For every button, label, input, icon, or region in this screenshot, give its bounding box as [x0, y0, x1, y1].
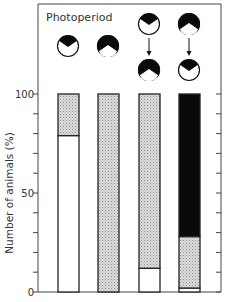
bar-segment-white	[139, 268, 160, 292]
y-tick-label-50: 50	[21, 188, 34, 199]
bars	[58, 94, 200, 292]
chart: 100 50 0 Number of animals (%) Photoperi…	[0, 0, 229, 302]
long-day-icon	[179, 14, 200, 36]
short-day-icon	[58, 35, 79, 56]
photoperiod-group-4	[179, 14, 200, 81]
bar-segment-stippled	[58, 94, 79, 136]
bar-segment-stippled	[98, 94, 119, 292]
photoperiod-group-3	[139, 14, 160, 82]
arrow-down-icon	[147, 38, 152, 56]
bar-segment-stippled	[179, 237, 200, 288]
bar-2	[98, 94, 119, 292]
bar-4	[179, 94, 200, 292]
chart-title: Photoperiod	[46, 11, 112, 24]
bar-segment-white	[58, 136, 79, 292]
arrow-down-icon	[187, 38, 192, 56]
long-day-icon	[139, 60, 160, 82]
photoperiod-group-2	[98, 36, 119, 58]
long-day-icon	[98, 36, 119, 58]
short-day-icon	[139, 14, 160, 35]
bar-segment-stippled	[139, 94, 160, 268]
bar-1	[58, 94, 79, 292]
y-tick-label-0: 0	[28, 287, 34, 298]
bar-3	[139, 94, 160, 292]
bar-segment-black	[179, 94, 200, 237]
short-day-icon	[179, 60, 200, 81]
photoperiod-group-1	[58, 35, 79, 56]
y-axis-title: Number of animals (%)	[3, 132, 15, 254]
y-tick-label-100: 100	[15, 89, 34, 100]
